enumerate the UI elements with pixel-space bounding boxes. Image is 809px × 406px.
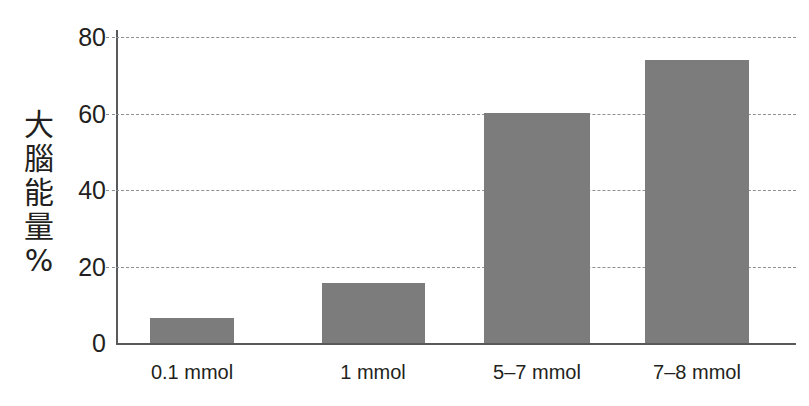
- tick-stub-80: [106, 37, 115, 38]
- x-tick-label-1: 1 mmol: [340, 360, 406, 384]
- y-tick-label: 0: [92, 331, 106, 356]
- y-axis-title-char: 量: [16, 210, 62, 244]
- y-axis-title-char: 腦: [16, 142, 62, 176]
- tick-stub-40: [106, 190, 115, 191]
- y-axis-title-char: 能: [16, 176, 62, 210]
- bar-chart: 大 腦 能 量 % 80 60 40 20: [0, 0, 809, 406]
- y-tick-label: 80: [78, 25, 106, 50]
- y-axis-title-char: %: [16, 244, 62, 278]
- x-tick-label-2: 5–7 mmol: [493, 360, 581, 384]
- tick-stub-60: [106, 114, 115, 115]
- x-tick-label-3: 7–8 mmol: [653, 360, 741, 384]
- x-tick-label-0: 0.1 mmol: [151, 360, 233, 384]
- tick-stub-20: [106, 267, 115, 268]
- y-axis-line: [116, 30, 118, 345]
- plot-area: 80 60 40 20 0 0.1 mmol 1 mmol 5–7: [116, 30, 796, 345]
- x-axis-line: [116, 343, 796, 345]
- y-axis-title-char: 大: [16, 108, 62, 142]
- bar-7-8-mmol[interactable]: [645, 60, 749, 343]
- bar-5-7-mmol[interactable]: [484, 113, 590, 343]
- y-tick-label: 40: [78, 178, 106, 203]
- gridline-80: [116, 37, 796, 38]
- bar-0.1-mmol[interactable]: [150, 318, 234, 343]
- y-tick-label: 60: [78, 101, 106, 126]
- y-axis-title: 大 腦 能 量 %: [16, 108, 62, 278]
- y-tick-label: 20: [78, 254, 106, 279]
- bar-1-mmol[interactable]: [322, 283, 425, 343]
